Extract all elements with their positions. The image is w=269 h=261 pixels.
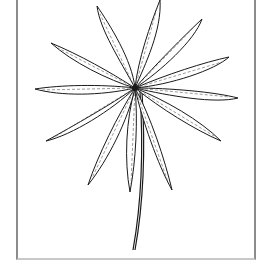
leaf-whorl: [35, 0, 238, 192]
whorl-center: [132, 85, 138, 91]
plant-drawing: [0, 0, 269, 261]
